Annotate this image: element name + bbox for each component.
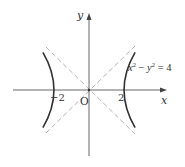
origin-point (88, 89, 90, 91)
eq-rhs: = 4 (155, 62, 171, 73)
eq-minus: − (136, 62, 147, 73)
asymptote-y-equals-minus-x (46, 47, 135, 134)
origin-label: O (80, 96, 89, 107)
x-axis-label: x (161, 95, 167, 106)
hyperbola-diagram: y x O −2 2 x2 − y2 = 4 (0, 0, 185, 167)
y-axis-label: y (77, 10, 83, 21)
tick-label-2: 2 (118, 93, 124, 103)
asymptote-y-equals-x (46, 46, 135, 133)
x-axis-arrow-icon (160, 88, 167, 93)
graph-canvas (0, 0, 185, 167)
tick-label-minus-2: −2 (50, 93, 65, 103)
equation-label: x2 − y2 = 4 (128, 62, 171, 74)
y-axis-arrow-icon (87, 13, 92, 20)
